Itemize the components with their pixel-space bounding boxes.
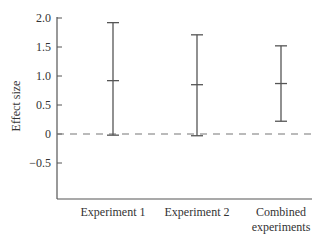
- error-bar: [275, 46, 287, 121]
- x-category-label: experiments: [252, 220, 311, 234]
- y-tick-label: 1.5: [36, 40, 51, 54]
- y-tick-label: −0.5: [29, 156, 51, 170]
- error-bars: [107, 23, 287, 136]
- y-tick-label: 0: [45, 127, 51, 141]
- x-axis: Experiment 1Experiment 2Combinedexperime…: [57, 199, 312, 234]
- y-axis-title: Effect size: [9, 81, 23, 132]
- x-category-label: Experiment 1: [81, 205, 146, 219]
- x-category-label: Combined: [256, 205, 306, 219]
- y-tick-label: 2.0: [36, 11, 51, 25]
- error-bar: [107, 23, 119, 136]
- y-tick-label: 0.5: [36, 98, 51, 112]
- y-axis: 2.01.51.00.50−0.5: [29, 11, 62, 199]
- x-category-label: Experiment 2: [165, 205, 230, 219]
- error-bar: [191, 35, 203, 136]
- y-tick-label: 1.0: [36, 69, 51, 83]
- effect-size-chart: 2.01.51.00.50−0.5 Experiment 1Experiment…: [0, 0, 322, 235]
